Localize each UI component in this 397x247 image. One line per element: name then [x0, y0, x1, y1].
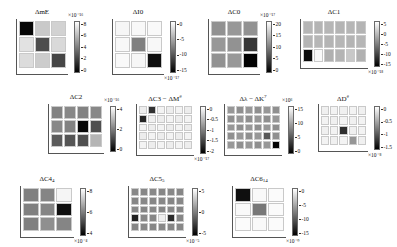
heatmap-cell [140, 197, 148, 205]
heatmap-cell [243, 53, 258, 68]
colorbar-tick-label: -2 [207, 149, 214, 155]
heatmap-cell [131, 214, 139, 222]
heatmap-cell [272, 124, 280, 132]
heatmap-cell [330, 116, 338, 125]
heatmap-cell [131, 206, 139, 214]
heatmap-cell [356, 35, 366, 48]
heatmap-cell [139, 115, 147, 123]
colorbar-gradient [170, 21, 176, 73]
heatmap-cell [166, 115, 174, 123]
heatmap-cell [23, 188, 39, 202]
colorbar-tick-label: 4 [81, 45, 86, 51]
heatmap-cell [131, 37, 146, 52]
heatmap-cell [321, 136, 329, 145]
heatmap-cell [227, 141, 235, 149]
heatmap-cell [157, 124, 165, 132]
colorbar-tick-label: -15 [381, 62, 391, 68]
colorbar-tick-label: -1 [381, 132, 388, 138]
panel-dmE: ΔmE86420×10⁻¹⁶ [16, 8, 100, 88]
colorbar-exponent: ×10⁻⁸ [368, 152, 382, 158]
heatmap-cell [211, 21, 226, 36]
panel-title: ΔC2 [48, 93, 104, 101]
colorbar-gradient [374, 106, 380, 150]
heatmap-cell [184, 124, 192, 132]
heatmap-cell [272, 115, 280, 123]
heatmap-cell [23, 217, 39, 231]
colorbar: 50-5 [192, 188, 198, 236]
heatmap-cell [77, 120, 89, 133]
heatmap-cell [346, 21, 356, 34]
heatmap-cell [245, 115, 253, 123]
heatmap-cell [90, 134, 102, 147]
colorbar-tick-label: 0 [81, 68, 86, 74]
heatmap-grid [321, 106, 366, 145]
heatmap-cell [252, 188, 268, 202]
heatmap-cell [349, 126, 357, 135]
heatmap-cell [339, 136, 347, 145]
heatmap-cell [166, 124, 174, 132]
heatmap-cell [51, 106, 63, 119]
panel-dC6-14: ΔC6140-5-10-15×10⁻⁹ [232, 175, 318, 247]
heatmap-cell [115, 21, 130, 36]
heatmap-grid [139, 106, 192, 149]
heatmap-cell [176, 197, 184, 205]
panel-title: ΔC0 [208, 8, 260, 16]
colorbar-exponent: ×10⁻⁹ [286, 238, 300, 244]
heatmap-cell [243, 37, 258, 52]
plot-area [20, 186, 74, 238]
colorbar: 0-0.5-1-1.5-2 [200, 106, 206, 154]
heatmap-cell [321, 106, 329, 115]
heatmap-cell [339, 106, 347, 115]
heatmap-cell [140, 223, 148, 231]
heatmap-cell [175, 106, 183, 114]
panel-title: ΔI0 [112, 8, 164, 16]
colorbar-exponent: ×10⁻¹⁶ [68, 12, 83, 18]
heatmap-cell [330, 126, 338, 135]
heatmap-cell [236, 106, 244, 114]
colorbar-tick-label: 10 [295, 121, 303, 127]
colorbar-tick-label: 6 [81, 33, 86, 39]
heatmap-cell [77, 106, 89, 119]
heatmap-cell [19, 53, 34, 68]
heatmap-cell [51, 53, 66, 68]
heatmap-cell [358, 136, 366, 145]
heatmap-cell [148, 106, 156, 114]
heatmap-cell [19, 21, 34, 36]
heatmap-cell [254, 141, 262, 149]
heatmap-cell [356, 21, 366, 34]
heatmap-cell [157, 106, 165, 114]
heatmap-grid [115, 21, 162, 68]
heatmap-cell [236, 115, 244, 123]
heatmap-cell [211, 53, 226, 68]
heatmap-cell [149, 214, 157, 222]
colorbar-gradient [192, 188, 198, 236]
colorbar-tick-label: -10 [177, 52, 187, 58]
heatmap-cell [158, 206, 166, 214]
panel-dC3-dM: ΔC3 − ΔM#0-0.5-1-1.5-2×10⁻¹⁷ [136, 93, 226, 169]
colorbar-tick-label: 5 [199, 189, 204, 195]
heatmap-grid [227, 106, 280, 149]
colorbar-tick-label: 4 [117, 107, 122, 113]
heatmap-cell [40, 217, 56, 231]
colorbar-tick-label: 0 [299, 189, 304, 195]
heatmap-cell [227, 21, 242, 36]
heatmap-cell [51, 134, 63, 147]
heatmap-cell [40, 203, 56, 217]
colorbar-tick-label: -5 [177, 37, 184, 43]
heatmap-grid [235, 188, 284, 231]
heatmap-cell [349, 136, 357, 145]
heatmap-cell [176, 223, 184, 231]
heatmap-cell [356, 49, 366, 62]
heatmap-cell [175, 141, 183, 149]
colorbar-exponent: ×10⁻¹⁶ [104, 97, 119, 103]
plot-area [208, 19, 260, 75]
colorbar: 86420 [74, 21, 80, 73]
heatmap-cell [339, 116, 347, 125]
colorbar-tick-label: 0 [273, 68, 278, 74]
colorbar-tick-label: 5 [381, 22, 386, 28]
heatmap-cell [321, 126, 329, 135]
plot-area [16, 19, 68, 75]
colorbar-gradient [288, 106, 294, 154]
heatmap-cell [175, 132, 183, 140]
heatmap-cell [268, 188, 284, 202]
